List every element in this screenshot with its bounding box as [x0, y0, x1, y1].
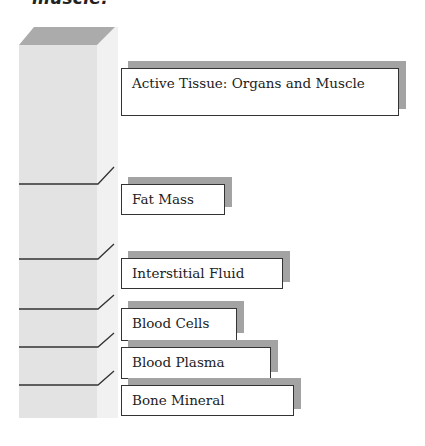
label-bone-mineral: Bone Mineral: [121, 385, 294, 416]
label-text: Active Tissue: Organs and Muscle: [132, 75, 365, 91]
label-text: Blood Cells: [132, 315, 209, 331]
label-blood-plasma: Blood Plasma: [121, 347, 271, 379]
label-fat-mass: Fat Mass: [121, 184, 225, 215]
label-text: Fat Mass: [132, 191, 194, 207]
label-active-tissue: Active Tissue: Organs and Muscle: [121, 68, 399, 116]
label-text: Blood Plasma: [132, 354, 225, 370]
column-front-face: [19, 45, 97, 418]
label-text: Bone Mineral: [132, 392, 225, 408]
label-interstitial-fluid: Interstitial Fluid: [121, 258, 283, 289]
label-text: Interstitial Fluid: [132, 265, 244, 281]
column-side-face: [97, 27, 118, 418]
label-blood-cells: Blood Cells: [121, 308, 237, 341]
